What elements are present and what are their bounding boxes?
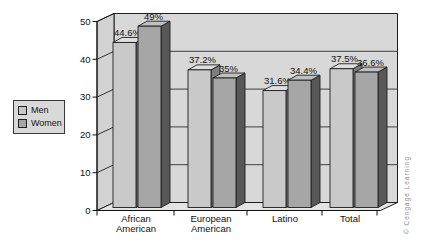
bar-men-2 [263, 91, 286, 208]
category-label: American [116, 223, 156, 234]
left-wall [97, 14, 114, 211]
figure: 0102030405044.6%49%AfricanAmerican37.2%3… [0, 0, 421, 243]
legend-item-men: Men [18, 105, 60, 115]
bar-men-1 [188, 70, 211, 208]
y-axis-label: 40 [80, 54, 91, 65]
bar-side-women-1 [236, 73, 245, 208]
legend-swatch-men [18, 106, 27, 115]
bar-men-0 [113, 42, 136, 207]
bar-women-3 [355, 72, 378, 207]
y-axis-label: 50 [80, 16, 91, 27]
y-axis-label: 0 [85, 205, 90, 216]
bar-women-0 [138, 26, 161, 207]
data-label: 35% [219, 63, 239, 74]
bar-side-women-0 [161, 21, 170, 207]
data-label: 36.6% [357, 57, 384, 68]
y-axis-label: 20 [80, 129, 91, 140]
legend-label-men: Men [31, 105, 49, 115]
legend-label-women: Women [31, 118, 62, 128]
data-label: 44.6% [114, 27, 141, 38]
y-axis-label: 30 [80, 91, 91, 102]
data-label: 37.2% [189, 54, 216, 65]
category-label: American [191, 223, 231, 234]
copyright-credit: © Cengage Learning [403, 156, 411, 234]
category-label: African [121, 213, 151, 224]
bar-women-1 [213, 78, 236, 208]
category-label: Total [340, 213, 360, 224]
data-label: 34.4% [290, 65, 317, 76]
bar-side-women-3 [378, 67, 387, 207]
legend-swatch-women [18, 119, 27, 128]
data-label: 49% [144, 11, 164, 22]
category-label: European [190, 213, 231, 224]
bar-side-women-2 [311, 75, 320, 207]
bar-men-3 [330, 69, 353, 208]
data-label: 37.5% [331, 53, 358, 64]
legend: Men Women [13, 100, 65, 134]
y-axis-label: 10 [80, 167, 91, 178]
category-label: Latino [272, 213, 298, 224]
legend-item-women: Women [18, 118, 60, 128]
bar-women-2 [288, 80, 311, 207]
